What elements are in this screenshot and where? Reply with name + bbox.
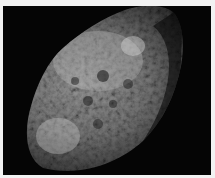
moon-body	[3, 6, 211, 175]
moon-photo	[3, 6, 211, 175]
photo-frame	[3, 6, 211, 175]
